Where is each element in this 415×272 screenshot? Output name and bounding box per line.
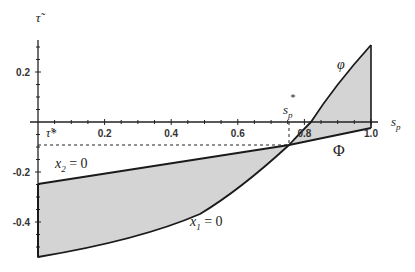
tau-star-label: τ̃* [46,126,56,140]
sp-star-label: sp [283,102,293,120]
sp-star-superscript: * [290,92,295,103]
y-tick-label: -0.4 [13,217,31,228]
x-tick-label: 0.8 [297,128,311,139]
y-tick-label: 0.2 [16,67,30,78]
x-tick-label: 0.2 [98,128,112,139]
y-axis-label: τ̃ [36,10,47,25]
x2-zero-label: x2 = 0 [54,156,88,174]
plot-canvas: 0.2 0.4 0.6 0.8 1.0 0.2 -0.2 -0.4 τ̃ sp … [0,0,415,272]
x1-zero-label: x1 = 0 [189,214,223,232]
x-tick-label: 0.4 [164,128,178,139]
x-tick-label: 1.0 [364,128,378,139]
phi-lower-label: φ [337,57,345,72]
x-tick-label: 0.6 [231,128,245,139]
phi-upper-label: Φ [333,142,345,159]
y-tick-label: -0.2 [13,167,31,178]
x-axis-label: sp [391,114,401,132]
